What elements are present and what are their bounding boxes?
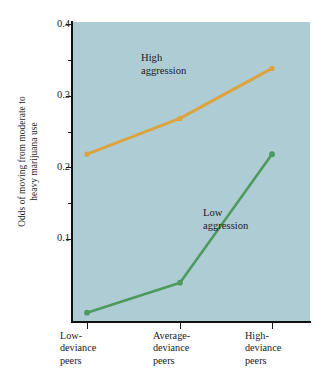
series-label-line: aggression bbox=[141, 65, 186, 78]
series-label-line: High bbox=[141, 52, 186, 65]
series-points-low-aggression bbox=[84, 151, 275, 315]
data-point bbox=[84, 310, 90, 316]
series-label-high-aggression: High aggression bbox=[141, 52, 186, 77]
series-line-high-aggression bbox=[87, 68, 272, 154]
series-label-line: Low bbox=[203, 207, 248, 220]
data-point bbox=[177, 116, 182, 121]
series-line-low-aggression bbox=[87, 154, 272, 313]
series-label-low-aggression: Low aggression bbox=[203, 207, 248, 232]
data-point bbox=[269, 66, 274, 71]
data-point bbox=[84, 152, 89, 157]
data-point bbox=[269, 151, 275, 157]
series-label-line: aggression bbox=[203, 220, 248, 233]
chart-figure: Odds of moving from moderate to heavy ma… bbox=[0, 0, 315, 374]
data-point bbox=[177, 280, 183, 286]
